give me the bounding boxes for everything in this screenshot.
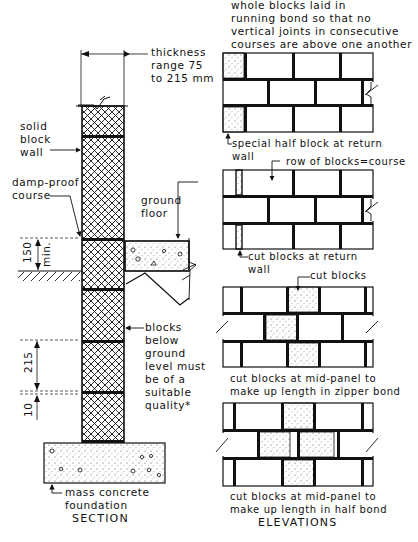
return-wall-title: row of blocks=course [286,155,406,168]
dim-min: min. [40,242,52,267]
zipper-bond-note: cut blocks at mid-panel to make up lengt… [230,372,401,398]
foundation-label: mass concrete foundation [65,486,150,512]
thickness-label: thickness range 75 to 215 mm [151,46,214,85]
arrow-icon [124,51,130,57]
section-caption: SECTION [72,512,129,525]
cut-block [236,225,242,249]
damp-proof-course-label: damp-proof course [12,176,79,202]
half-block [223,53,244,78]
dim-10: 10 [22,403,34,417]
ground-floor-label: ground floor [141,194,182,220]
elevation-panel-return-wall [223,161,378,257]
dim-215: 215 [22,351,34,373]
running-bond-title: whole blocks laid in running bond so tha… [231,0,412,51]
dim-150: 150 [21,241,33,263]
hardcore [126,273,189,305]
below-ground-label: blocks below ground level must be of a s… [145,321,206,412]
cut-block [259,432,290,457]
section-view [18,50,198,493]
dpc-joint [82,238,124,241]
concrete-foundation [44,443,165,483]
cut-block [236,170,242,195]
half-bond-note: cut blocks at mid-panel to make up lengt… [230,490,387,516]
elevation-panel-zipper-bond [216,277,378,367]
zipper-bond-title: cut blocks [310,269,367,282]
solid-block-wall-label: solid block wall [20,120,51,159]
half-block [223,107,244,132]
cut-block [283,460,314,486]
ground-hatch [18,272,80,281]
elevations-caption: ELEVATIONS [258,516,337,529]
elevation-panel-running-bond [223,53,378,144]
cut-block [266,315,297,340]
cut-block [288,343,319,367]
cut-block [299,432,334,457]
elevation-panel-half-bond [216,403,378,486]
cut-block [283,403,314,429]
arrow-icon [81,51,89,57]
cut-block [288,287,319,312]
